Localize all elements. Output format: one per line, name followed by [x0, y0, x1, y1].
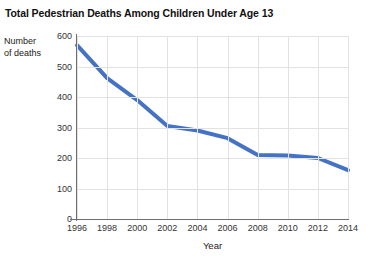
- x-axis-tick-label: 2008: [248, 223, 268, 233]
- gridline-horizontal: [77, 67, 348, 68]
- y-axis-tick-label: 500: [42, 62, 72, 72]
- gridline-vertical: [288, 36, 289, 219]
- gridline-vertical: [348, 36, 349, 219]
- gridline-vertical: [167, 36, 168, 219]
- gridline-vertical: [318, 36, 319, 219]
- x-axis-line: [70, 219, 349, 220]
- x-axis-title: Year: [77, 240, 348, 251]
- chart-title: Total Pedestrian Deaths Among Children U…: [5, 7, 273, 19]
- x-axis-tick-label: 2006: [218, 223, 238, 233]
- gridline-vertical: [77, 36, 78, 219]
- chart-figure: Total Pedestrian Deaths Among Children U…: [0, 0, 370, 265]
- x-axis-tick-label: 2014: [338, 223, 358, 233]
- x-axis-tick-label: 2004: [187, 223, 207, 233]
- pedestrian-deaths-line: [77, 45, 348, 170]
- gridline-horizontal: [77, 189, 348, 190]
- y-axis-tick-labels: 0100200300400500600: [42, 36, 72, 219]
- x-axis-tick-label: 1996: [67, 223, 87, 233]
- gridline-vertical: [258, 36, 259, 219]
- x-axis-tick-label: 2000: [127, 223, 147, 233]
- x-axis-tick-labels: 1996199820002002200420062008201020122014: [77, 223, 348, 237]
- x-axis-tick-label: 2010: [278, 223, 298, 233]
- y-axis-tick-label: 100: [42, 184, 72, 194]
- gridline-horizontal: [77, 128, 348, 129]
- plot-area: [77, 36, 348, 219]
- gridline-vertical: [137, 36, 138, 219]
- y-axis-tick-label: 400: [42, 92, 72, 102]
- gridline-horizontal: [77, 97, 348, 98]
- x-axis-tick-label: 2002: [157, 223, 177, 233]
- gridline-horizontal: [77, 158, 348, 159]
- y-axis-tick-label: 200: [42, 153, 72, 163]
- y-axis-tick-label: 600: [42, 31, 72, 41]
- x-axis-tick-label: 1998: [97, 223, 117, 233]
- y-axis-line: [76, 34, 77, 221]
- gridline-vertical: [197, 36, 198, 219]
- gridline-vertical: [107, 36, 108, 219]
- y-axis-tick-label: 300: [42, 123, 72, 133]
- gridline-vertical: [228, 36, 229, 219]
- x-axis-tick-label: 2012: [308, 223, 328, 233]
- gridline-horizontal: [77, 36, 348, 37]
